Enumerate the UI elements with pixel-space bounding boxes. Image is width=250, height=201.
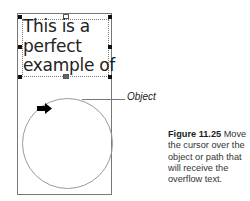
selection-handle-middle-left[interactable] <box>18 45 22 49</box>
sample-text: This is a perfect example of <box>23 17 115 76</box>
selection-handle-top-left[interactable] <box>18 15 22 19</box>
sample-text-line: example of <box>23 56 115 76</box>
figure-caption: Figure 11.25 Move the cursor over the ob… <box>168 129 250 185</box>
selection-handle-bottom-right[interactable] <box>108 75 112 79</box>
selection-handle-bottom-left[interactable] <box>18 75 22 79</box>
arrow-right-icon <box>37 103 53 114</box>
object-label: Object <box>127 91 156 102</box>
circle-object[interactable] <box>22 98 113 189</box>
sample-text-line: This is a <box>23 17 115 37</box>
sample-text-line: perfect <box>23 37 115 57</box>
leader-line <box>82 99 125 100</box>
figure-number: Figure 11.25 <box>168 129 221 139</box>
